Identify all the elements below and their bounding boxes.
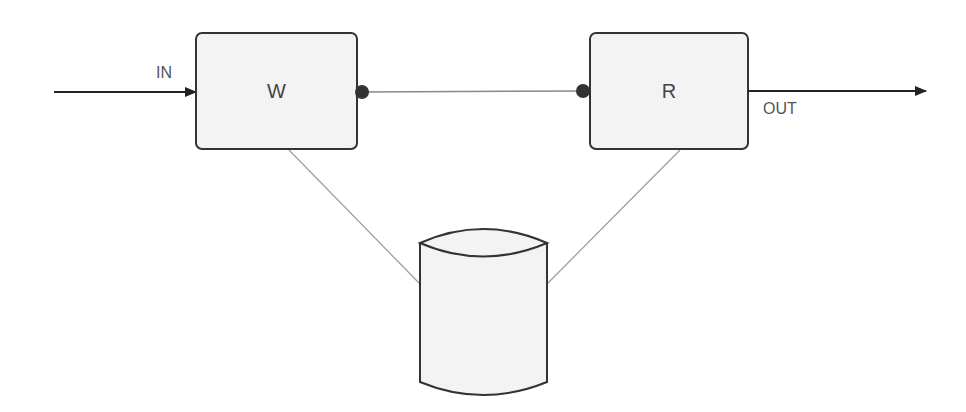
in-label: IN [156,64,172,82]
w-output-port-icon[interactable] [355,85,369,99]
r-block-label: R [590,80,748,103]
r-to-storage-link [547,150,680,284]
w-block-label: W [196,80,357,103]
r-input-port-icon[interactable] [576,84,590,98]
w-to-r-link [362,91,583,92]
diagram-canvas [0,0,966,412]
storage-cylinder-icon[interactable] [420,229,547,395]
w-to-storage-link [289,150,420,284]
out-label: OUT [763,100,797,118]
